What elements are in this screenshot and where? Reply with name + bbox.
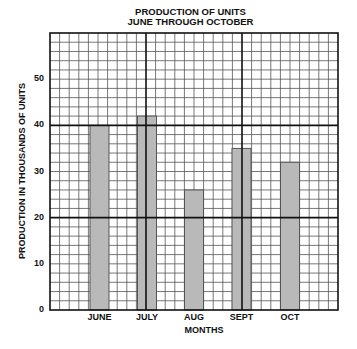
- x-tick-label: SEPT: [222, 312, 262, 322]
- x-axis-title: MONTHS: [174, 325, 234, 335]
- x-tick-label: OCT: [270, 312, 310, 322]
- y-tick-label: 40: [24, 119, 44, 129]
- x-tick-label: JUNE: [80, 312, 120, 322]
- bar-oct: [281, 162, 300, 310]
- y-tick-label: 10: [24, 258, 44, 268]
- y-tick-label: 30: [24, 166, 44, 176]
- y-axis-title: PRODUCTION IN THOUSANDS OF UNITS: [17, 83, 27, 259]
- y-tick-label: 50: [24, 73, 44, 83]
- x-tick-label: AUG: [174, 312, 214, 322]
- bar-aug: [185, 190, 204, 310]
- plot-area: [0, 0, 357, 349]
- bar-july: [138, 116, 157, 310]
- y-tick-label: 0: [24, 304, 44, 314]
- y-tick-label: 20: [24, 212, 44, 222]
- bars: [90, 116, 300, 310]
- x-tick-label: JULY: [127, 312, 167, 322]
